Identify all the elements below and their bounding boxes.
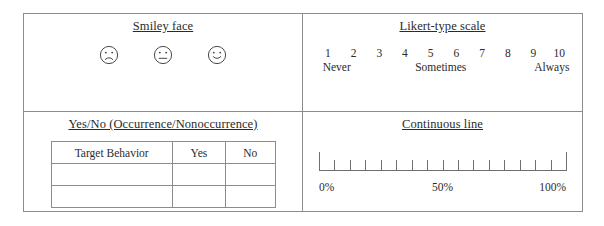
continuous-line-scale: 0% 50% 100% (319, 152, 566, 204)
table-row (51, 186, 275, 208)
rating-scale-figure: Smiley face Likert-type sc (23, 13, 583, 212)
sad-face-icon (99, 45, 119, 65)
likert-number: 5 (418, 47, 444, 59)
panel-title-likert-scale: Likert-type scale (303, 19, 582, 34)
likert-anchor-high: Always (534, 61, 569, 73)
panel-title-yes-no: Yes/No (Occurrence/Nonoccurrence) (24, 117, 302, 132)
happy-face-icon (207, 45, 227, 65)
column-header-no: No (226, 142, 275, 164)
yes-no-table: Target Behavior Yes No (51, 141, 276, 208)
continuous-tick (412, 160, 413, 171)
likert-number: 4 (392, 47, 418, 59)
panel-continuous-line: Continuous line 0% 50% 100% (302, 111, 582, 211)
likert-number: 7 (469, 47, 495, 59)
smiley-face-row (24, 45, 302, 65)
continuous-endpoint-tick (566, 152, 567, 171)
likert-number: 6 (444, 47, 470, 59)
continuous-tick (473, 160, 474, 171)
cell-no[interactable] (226, 186, 275, 208)
continuous-tick (334, 160, 335, 171)
likert-number-row: 1 2 3 4 5 6 7 8 9 10 (315, 47, 572, 59)
cell-yes[interactable] (172, 186, 225, 208)
continuous-tick (520, 160, 521, 171)
neutral-face-icon (153, 45, 173, 65)
continuous-tick (504, 160, 505, 171)
continuous-tick (489, 160, 490, 171)
continuous-tick (396, 160, 397, 171)
continuous-label-end: 100% (539, 181, 566, 193)
continuous-tick (458, 160, 459, 171)
continuous-tick (535, 160, 536, 171)
continuous-endpoint-tick (319, 152, 320, 171)
continuous-tick (427, 160, 428, 171)
cell-no[interactable] (226, 164, 275, 186)
panel-smiley-face: Smiley face (24, 14, 302, 111)
continuous-tick (365, 160, 366, 171)
likert-number: 8 (495, 47, 521, 59)
panel-yes-no: Yes/No (Occurrence/Nonoccurrence) Target… (24, 111, 302, 211)
likert-anchor-low: Never (323, 61, 351, 73)
continuous-tick (381, 160, 382, 171)
likert-number: 2 (341, 47, 367, 59)
panel-likert-scale: Likert-type scale 1 2 3 4 5 6 7 8 9 10 N… (302, 14, 582, 111)
continuous-tick (443, 160, 444, 171)
table-header-row: Target Behavior Yes No (51, 142, 275, 164)
likert-anchor-row: Never Sometimes Always (315, 61, 572, 76)
continuous-line-labels: 0% 50% 100% (319, 181, 566, 197)
panel-title-smiley-face: Smiley face (24, 19, 302, 34)
continuous-tick (350, 160, 351, 171)
likert-number: 1 (315, 47, 341, 59)
continuous-label-start: 0% (319, 181, 334, 193)
table-row (51, 164, 275, 186)
continuous-line-ruler[interactable] (319, 152, 566, 178)
likert-number: 9 (521, 47, 547, 59)
likert-anchor-mid: Sometimes (415, 61, 466, 73)
column-header-target-behavior: Target Behavior (51, 142, 172, 164)
panel-title-continuous-line: Continuous line (303, 117, 582, 132)
continuous-label-middle: 50% (432, 181, 453, 193)
likert-number: 3 (366, 47, 392, 59)
likert-number: 10 (546, 47, 572, 59)
column-header-yes: Yes (172, 142, 225, 164)
likert-scale: 1 2 3 4 5 6 7 8 9 10 Never Sometimes Alw… (303, 47, 582, 76)
cell-target-behavior[interactable] (51, 164, 172, 186)
cell-target-behavior[interactable] (51, 186, 172, 208)
cell-yes[interactable] (172, 164, 225, 186)
continuous-tick (551, 160, 552, 171)
